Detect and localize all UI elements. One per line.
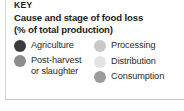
legend-item-label: Distribution	[111, 56, 156, 67]
legend-label-line-1: Distribution	[111, 56, 156, 66]
legend-item-agriculture[interactable]: Agriculture	[14, 40, 94, 52]
legend-item-processing[interactable]: Processing	[94, 40, 184, 52]
legend-label-line-1: Post-harvest	[31, 55, 81, 65]
legend-panel: KEY Cause and stage of food loss (% of t…	[5, 0, 184, 100]
swatch-consumption-icon	[94, 71, 106, 83]
legend-item-consumption[interactable]: Consumption	[94, 71, 184, 83]
legend-columns: Agriculture Post-harvest or slaughter Pr…	[14, 40, 184, 87]
legend-key-word: KEY	[14, 0, 184, 11]
legend-label-line-1: Consumption	[111, 71, 164, 81]
swatch-processing-icon	[94, 40, 106, 52]
legend-item-distribution[interactable]: Distribution	[94, 56, 184, 68]
legend-label-line-1: Processing	[111, 40, 155, 50]
legend-label-line-1: Agriculture	[31, 40, 74, 50]
swatch-post-harvest-or-slaughter-icon	[14, 55, 26, 67]
legend-title-line-1: Cause and stage of food loss	[14, 12, 184, 24]
legend-label-line-2: or slaughter	[31, 66, 81, 77]
legend-item-label: Processing	[111, 40, 155, 51]
swatch-distribution-icon	[94, 56, 106, 68]
legend-item-label: Agriculture	[31, 40, 74, 51]
legend-item-post-harvest-or-slaughter[interactable]: Post-harvest or slaughter	[14, 55, 94, 77]
legend-column-right: Processing Distribution Consumption	[94, 40, 184, 87]
swatch-agriculture-icon	[14, 40, 26, 52]
legend-item-label: Post-harvest or slaughter	[31, 55, 81, 77]
legend-item-label: Consumption	[111, 71, 164, 82]
legend-heading: KEY Cause and stage of food loss (% of t…	[14, 0, 184, 35]
legend-title-line-2: (% of total production)	[14, 24, 184, 36]
legend-column-left: Agriculture Post-harvest or slaughter	[14, 40, 94, 87]
